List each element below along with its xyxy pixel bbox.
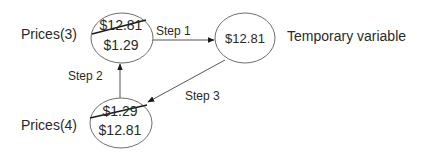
prices4-new-value: $12.81 xyxy=(88,122,152,138)
step1-label: Step 1 xyxy=(156,24,191,38)
prices3-new-value: $1.29 xyxy=(89,37,153,53)
step2-label: Step 2 xyxy=(68,69,103,83)
prices4-label: Prices(4) xyxy=(21,117,77,133)
prices4-old-value: $1.29 xyxy=(88,103,152,119)
step3-label: Step 3 xyxy=(185,89,220,103)
temp-label: Temporary variable xyxy=(287,28,406,44)
temp-value: $12.81 xyxy=(214,31,276,46)
prices3-old-value: $12.81 xyxy=(89,17,153,33)
prices3-label: Prices(3) xyxy=(21,26,77,42)
